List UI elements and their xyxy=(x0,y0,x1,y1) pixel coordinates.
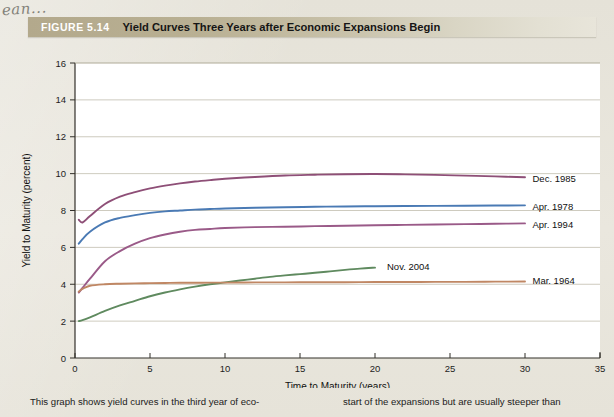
y-tick-label-12: 12 xyxy=(55,131,66,142)
x-tick-label-35: 35 xyxy=(595,363,606,374)
x-tick-label-25: 25 xyxy=(445,363,456,374)
y-axis-title: Yield to Maturity (percent) xyxy=(21,153,32,267)
x-tick-label-0: 0 xyxy=(72,363,77,374)
y-tick-label-2: 2 xyxy=(61,316,66,327)
y-tick-label-8: 8 xyxy=(61,205,66,216)
y-tick-label-0: 0 xyxy=(61,353,66,364)
x-axis-title: Time to Maturity (years) xyxy=(285,381,390,388)
x-tick-label-30: 30 xyxy=(520,363,531,374)
y-tick-label-14: 14 xyxy=(55,94,66,105)
figure-number-label: FIGURE 5.14 xyxy=(41,21,110,33)
x-tick-label-10: 10 xyxy=(220,363,231,374)
caption-column-left: This graph shows yield curves in the thi… xyxy=(30,396,330,417)
chart-area: 024681012141605101520253035 Dec. 1985Apr… xyxy=(0,40,614,388)
figure-header-bar: FIGURE 5.14 Yield Curves Three Years aft… xyxy=(28,17,596,37)
x-tick-label-5: 5 xyxy=(147,363,152,374)
y-tick-label-10: 10 xyxy=(55,168,66,179)
y-tick-label-6: 6 xyxy=(61,242,66,253)
y-tick-label-16: 16 xyxy=(55,58,66,69)
series-label-apr-1994: Apr. 1994 xyxy=(533,219,574,230)
figure-title: Yield Curves Three Years after Economic … xyxy=(123,21,441,33)
series-label-nov-2004: Nov. 2004 xyxy=(387,261,430,272)
series-label-dec-1985: Dec. 1985 xyxy=(533,173,576,184)
x-tick-label-15: 15 xyxy=(295,363,306,374)
caption-column-right: start of the expansions but are usually … xyxy=(343,396,561,417)
series-label-mar-1964: Mar. 1964 xyxy=(533,275,575,286)
figure-caption: This graph shows yield curves in the thi… xyxy=(0,396,614,417)
x-tick-label-20: 20 xyxy=(370,363,381,374)
yield-curve-chart: 024681012141605101520253035 Dec. 1985Apr… xyxy=(0,40,614,388)
y-tick-label-4: 4 xyxy=(61,279,66,290)
series-label-apr-1978: Apr. 1978 xyxy=(533,201,574,212)
